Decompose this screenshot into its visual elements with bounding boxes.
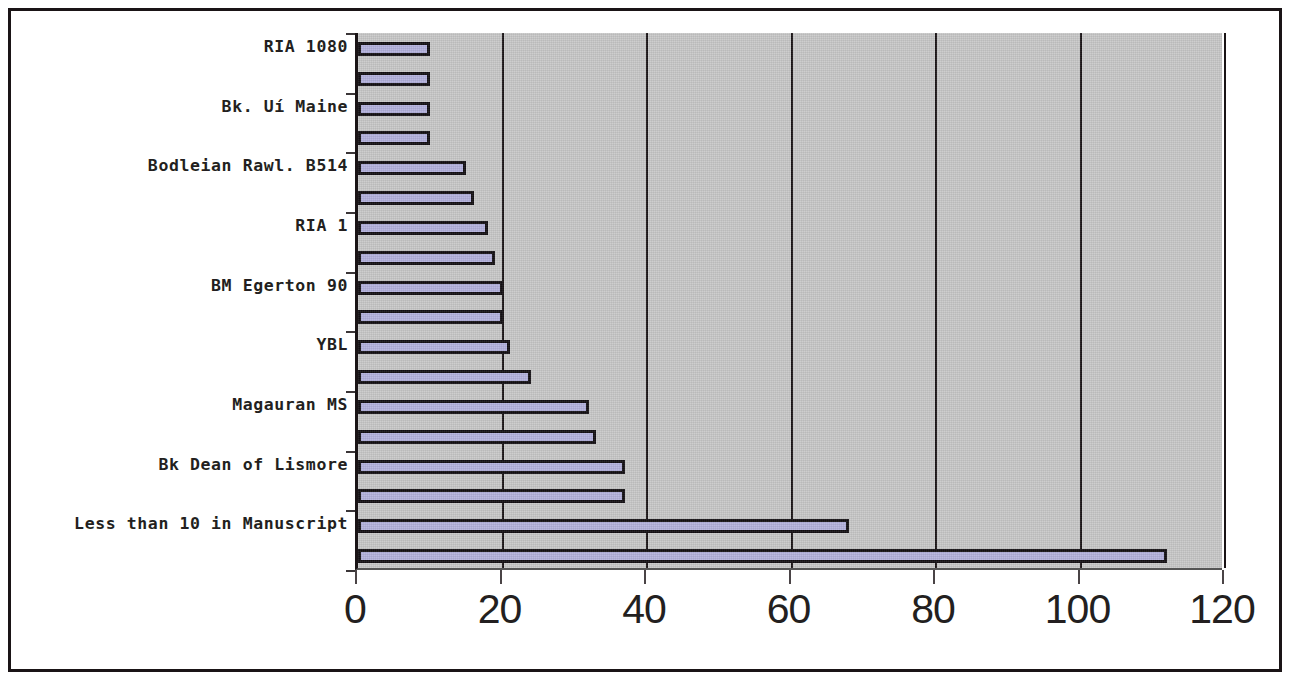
bar-row <box>358 340 1225 354</box>
x-axis-label: 60 <box>729 586 849 633</box>
bar[interactable] <box>358 42 430 56</box>
x-axis-label: 40 <box>584 586 704 633</box>
bar[interactable] <box>358 460 625 474</box>
bar[interactable] <box>358 519 849 533</box>
x-axis-tick <box>500 570 502 584</box>
y-axis-tick <box>346 212 355 214</box>
bar[interactable] <box>358 310 503 324</box>
bar-row <box>358 221 1225 235</box>
bar-row <box>358 310 1225 324</box>
y-axis-tick <box>346 331 355 333</box>
y-axis-label: Bodleian Rawl. B514 <box>8 156 348 175</box>
bar-row <box>358 460 1225 474</box>
x-axis-tick <box>789 570 791 584</box>
y-axis-label: RIA 1080 <box>8 37 348 56</box>
bar-row <box>358 191 1225 205</box>
y-axis-tick <box>346 451 355 453</box>
bar-row <box>358 400 1225 414</box>
x-axis-label: 120 <box>1162 586 1282 633</box>
y-axis-label: BM Egerton 90 <box>8 276 348 295</box>
bar-row <box>358 549 1225 563</box>
bar-row <box>358 102 1225 116</box>
bar[interactable] <box>358 191 474 205</box>
x-axis-tick <box>1078 570 1080 584</box>
x-axis-label: 80 <box>873 586 993 633</box>
bar-row <box>358 251 1225 265</box>
bar[interactable] <box>358 251 495 265</box>
y-axis-tick <box>346 570 355 572</box>
x-axis-tick <box>1222 570 1224 584</box>
y-axis-tick <box>346 510 355 512</box>
x-axis-tick <box>933 570 935 584</box>
x-axis-tick <box>644 570 646 584</box>
y-axis-tick <box>346 391 355 393</box>
bar[interactable] <box>358 400 589 414</box>
y-axis-label: Bk. Uí Maine <box>8 97 348 116</box>
bar-row <box>358 281 1225 295</box>
y-axis-labels: RIA 1080Bk. Uí MaineBodleian Rawl. B514R… <box>0 33 348 570</box>
plot-area <box>355 33 1222 570</box>
bar[interactable] <box>358 340 510 354</box>
y-axis-tick <box>346 33 355 35</box>
bar-row <box>358 489 1225 503</box>
bar[interactable] <box>358 489 625 503</box>
bar[interactable] <box>358 102 430 116</box>
y-axis-tick <box>346 272 355 274</box>
x-axis-tick <box>355 570 357 584</box>
y-axis-label: RIA 1 <box>8 216 348 235</box>
bar-row <box>358 519 1225 533</box>
bar-row <box>358 42 1225 56</box>
y-axis-label: Magauran MS <box>8 395 348 414</box>
x-axis-label: 20 <box>440 586 560 633</box>
bar[interactable] <box>358 131 430 145</box>
bar-row <box>358 72 1225 86</box>
bar[interactable] <box>358 72 430 86</box>
page-root: RIA 1080Bk. Uí MaineBodleian Rawl. B514R… <box>0 0 1293 679</box>
x-axis-label: 100 <box>1018 586 1138 633</box>
bar[interactable] <box>358 549 1167 563</box>
y-axis-label: Less than 10 in Manuscript <box>8 514 348 533</box>
bar[interactable] <box>358 161 466 175</box>
y-axis-tick <box>346 93 355 95</box>
bar[interactable] <box>358 221 488 235</box>
bar-row <box>358 430 1225 444</box>
y-axis-label: YBL <box>8 335 348 354</box>
bar[interactable] <box>358 430 596 444</box>
bar-row <box>358 370 1225 384</box>
bar[interactable] <box>358 281 503 295</box>
y-axis-tick <box>346 152 355 154</box>
bar-row <box>358 131 1225 145</box>
bar-chart: RIA 1080Bk. Uí MaineBodleian Rawl. B514R… <box>0 0 1293 679</box>
bar-row <box>358 161 1225 175</box>
y-axis-label: Bk Dean of Lismore <box>8 455 348 474</box>
bar[interactable] <box>358 370 531 384</box>
x-axis-label: 0 <box>295 586 415 633</box>
